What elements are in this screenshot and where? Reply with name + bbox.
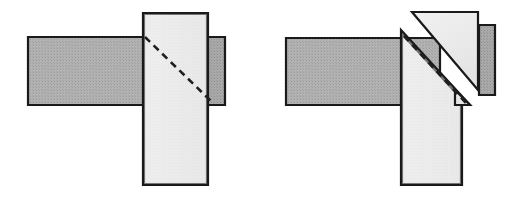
figure-root: Mortise-and-tenon timber joint: intact a… — [0, 0, 519, 199]
right-beam-tenon-displaced — [479, 25, 495, 95]
left-beam-tenon — [207, 37, 225, 105]
left-post-texture — [144, 14, 207, 184]
joint-failure-diagram — [0, 0, 519, 199]
